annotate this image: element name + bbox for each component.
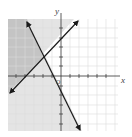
y-axis-label: y (54, 6, 59, 16)
x-axis-label: x (120, 75, 125, 85)
inequality-graph: y x O (0, 0, 132, 137)
origin-label: O (56, 79, 61, 85)
